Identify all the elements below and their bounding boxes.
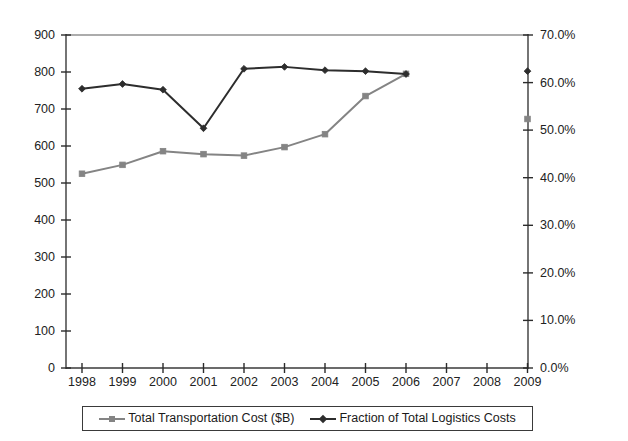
- y-left-tick-label: 500: [34, 176, 55, 190]
- line-chart-canvas: 0 100 200 300 400 500 600 700 800 900 0.…: [0, 0, 628, 441]
- y-left-tick-label: 300: [34, 250, 55, 264]
- data-point-marker: [363, 93, 369, 99]
- y-right-tick-label: 40.0%: [540, 171, 575, 185]
- data-point-marker: [362, 68, 369, 75]
- y-left-tick-label: 600: [34, 139, 55, 153]
- x-tick-label: 2002: [230, 375, 258, 389]
- x-tick-label: 2005: [352, 375, 380, 389]
- legend-marker-diamond-icon: [310, 413, 336, 424]
- series-fraction-of-logistics-costs: [79, 63, 531, 131]
- legend-item-transportation-cost[interactable]: Total Transportation Cost ($B): [99, 412, 294, 425]
- x-tick-label: 2000: [149, 375, 177, 389]
- x-tick-label: 1999: [109, 375, 137, 389]
- isolated-data-point-marker: [525, 116, 531, 122]
- series-polyline: [82, 67, 406, 128]
- x-tick-label: 1998: [68, 375, 96, 389]
- legend-label: Fraction of Total Logistics Costs: [339, 412, 515, 425]
- y-right-tick-label: 0.0%: [540, 361, 569, 375]
- x-axis-labels: 1998 1999 2000 2001 2002 2003 2004 2005 …: [68, 375, 541, 389]
- data-point-marker: [282, 144, 288, 150]
- y-right-tick-label: 60.0%: [540, 76, 575, 90]
- data-point-marker: [281, 63, 288, 70]
- legend-item-fraction-logistics[interactable]: Fraction of Total Logistics Costs: [310, 412, 515, 425]
- x-tick-label: 2003: [271, 375, 299, 389]
- y-left-tick-label: 900: [34, 28, 55, 42]
- y-left-tick-label: 0: [48, 361, 55, 375]
- data-point-marker: [119, 81, 126, 88]
- data-point-marker: [322, 67, 329, 74]
- y-left-tick-label: 800: [34, 65, 55, 79]
- data-point-marker: [79, 171, 85, 177]
- chart-legend: Total Transportation Cost ($B) Fraction …: [82, 406, 533, 431]
- x-tick-label: 2004: [311, 375, 339, 389]
- y-right-tick-label: 30.0%: [540, 218, 575, 232]
- y-right-tick-label: 20.0%: [540, 266, 575, 280]
- y-axis-right-labels: 0.0% 10.0% 20.0% 30.0% 40.0% 50.0% 60.0%…: [540, 28, 575, 375]
- y-left-tick-label: 100: [34, 324, 55, 338]
- legend-label: Total Transportation Cost ($B): [128, 412, 294, 425]
- isolated-data-point-marker: [524, 68, 531, 75]
- x-tick-label: 2009: [514, 375, 542, 389]
- y-right-tick-label: 50.0%: [540, 123, 575, 137]
- data-point-marker: [322, 131, 328, 137]
- y-axis-left-labels: 0 100 200 300 400 500 600 700 800 900: [34, 28, 55, 375]
- y-right-tick-label: 10.0%: [540, 313, 575, 327]
- legend-marker-square-icon: [99, 413, 125, 424]
- data-point-marker: [160, 148, 166, 154]
- y-left-tick-label: 700: [34, 102, 55, 116]
- y-left-tick-label: 400: [34, 213, 55, 227]
- y-left-tick-label: 200: [34, 287, 55, 301]
- data-point-marker: [120, 162, 126, 168]
- data-point-marker: [79, 85, 86, 92]
- y-right-tick-label: 70.0%: [540, 28, 575, 42]
- x-tick-label: 2008: [473, 375, 501, 389]
- x-tick-label: 2006: [392, 375, 420, 389]
- x-tick-label: 2001: [190, 375, 218, 389]
- data-point-marker: [201, 151, 207, 157]
- chart-container: 0 100 200 300 400 500 600 700 800 900 0.…: [0, 0, 628, 441]
- x-tick-label: 2007: [433, 375, 461, 389]
- data-point-marker: [241, 153, 247, 159]
